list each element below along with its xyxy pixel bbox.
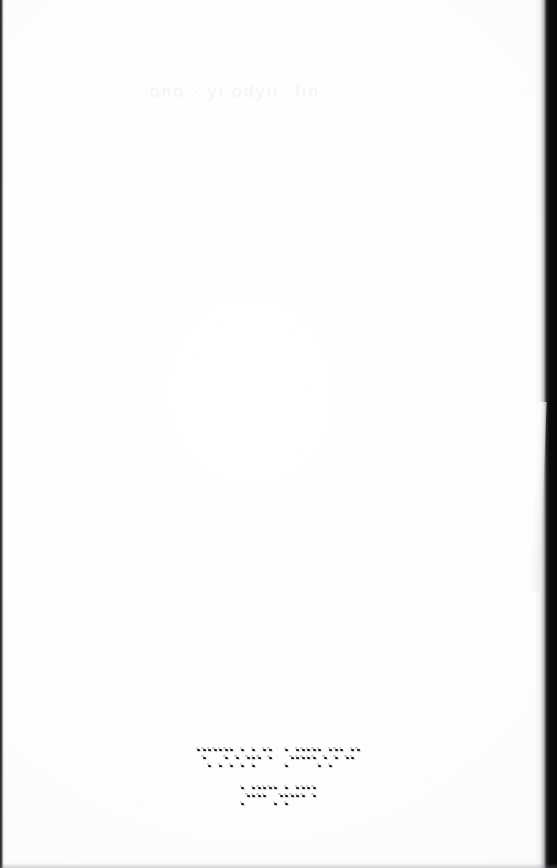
braille-dot [219, 765, 222, 768]
braille-cell [339, 744, 350, 774]
braille-cell [240, 744, 251, 774]
braille-dot [313, 749, 316, 752]
braille-dot [203, 757, 206, 760]
braille-cell [306, 744, 317, 774]
braille-dot [335, 757, 338, 760]
braille-word [196, 744, 273, 774]
braille-dot [285, 787, 288, 790]
braille-dot [313, 757, 316, 760]
braille-dot [258, 795, 261, 798]
ghost-showthrough-text: ono · yi odyit· fin [150, 82, 398, 116]
braille-dot [280, 795, 283, 798]
braille-dot [324, 757, 327, 760]
braille-dot [335, 749, 338, 752]
braille-dot [269, 757, 272, 760]
braille-dot [269, 787, 272, 790]
braille-dot [318, 765, 321, 768]
scanned-page: ono · yi odyit· fin [0, 0, 557, 868]
braille-dot [329, 765, 332, 768]
braille-dot [346, 757, 349, 760]
braille-dot [307, 787, 310, 790]
braille-dot [302, 749, 305, 752]
braille-cell [317, 744, 328, 774]
braille-cell [251, 782, 262, 812]
braille-dot [291, 795, 294, 798]
braille-dot [252, 795, 255, 798]
braille-cell [229, 744, 240, 774]
braille-dot [241, 803, 244, 806]
braille-cell [207, 744, 218, 774]
braille-dot [296, 749, 299, 752]
braille-dot [291, 757, 294, 760]
braille-dot [285, 749, 288, 752]
braille-dot [285, 765, 288, 768]
braille-dot [313, 795, 316, 798]
braille-dot [357, 749, 360, 752]
braille-dot [241, 765, 244, 768]
braille-dot [203, 749, 206, 752]
braille-cell [218, 744, 229, 774]
braille-dot [236, 757, 239, 760]
braille-dot [230, 749, 233, 752]
braille-cell [284, 782, 295, 812]
braille-cell [328, 744, 339, 774]
braille-dot [313, 787, 316, 790]
braille-cell [262, 744, 273, 774]
braille-dot [307, 749, 310, 752]
braille-dot [274, 803, 277, 806]
braille-dot [208, 749, 211, 752]
braille-dot [247, 795, 250, 798]
braille-dot [197, 749, 200, 752]
braille-line-1 [0, 744, 557, 782]
braille-dot [307, 757, 310, 760]
braille-dot [241, 787, 244, 790]
braille-dot [302, 795, 305, 798]
braille-cell [262, 782, 273, 812]
braille-dot [225, 757, 228, 760]
braille-cell [240, 782, 251, 812]
braille-dot [214, 749, 217, 752]
braille-dot [329, 749, 332, 752]
braille-dot [219, 749, 222, 752]
left-scan-edge-shadow [0, 0, 4, 868]
braille-cell [273, 782, 284, 812]
braille-dot [247, 757, 250, 760]
braille-dot [302, 787, 305, 790]
braille-cell [295, 782, 306, 812]
braille-cell [350, 744, 361, 774]
braille-dot [263, 795, 266, 798]
paper-grain-texture [0, 0, 557, 868]
braille-dot [296, 787, 299, 790]
braille-dot [351, 749, 354, 752]
braille-dot [208, 765, 211, 768]
braille-dot [269, 749, 272, 752]
braille-cell [196, 744, 207, 774]
braille-word [284, 744, 361, 774]
braille-dot [225, 749, 228, 752]
braille-dot [302, 757, 305, 760]
braille-dot [258, 757, 261, 760]
braille-line-2 [0, 782, 557, 820]
braille-dot [230, 765, 233, 768]
braille-text-block [0, 744, 557, 820]
braille-dot [241, 749, 244, 752]
braille-dot [274, 787, 277, 790]
braille-dot [258, 787, 261, 790]
bottom-scan-edge-shadow [0, 863, 557, 868]
braille-cell [295, 744, 306, 774]
braille-cell [306, 782, 317, 812]
braille-dot [263, 787, 266, 790]
braille-dot [252, 787, 255, 790]
braille-word [240, 782, 317, 812]
braille-dot [252, 749, 255, 752]
braille-dot [285, 803, 288, 806]
braille-dot [351, 757, 354, 760]
braille-dot [340, 749, 343, 752]
braille-word-space [273, 744, 284, 774]
braille-cell [251, 744, 262, 774]
braille-cell [284, 744, 295, 774]
braille-dot [252, 757, 255, 760]
braille-dot [318, 749, 321, 752]
braille-dot [263, 749, 266, 752]
braille-dot [252, 765, 255, 768]
